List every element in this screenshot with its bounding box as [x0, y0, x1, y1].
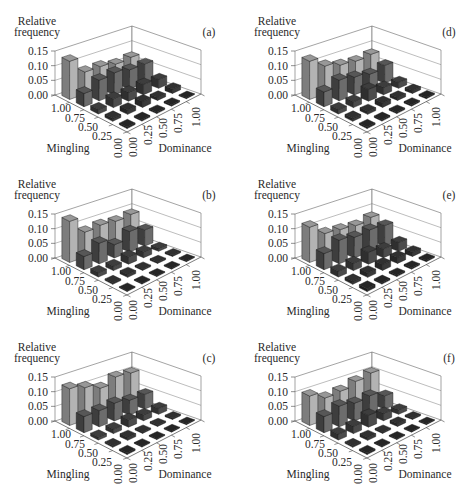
- dominance-tick-label: 0.75: [412, 439, 424, 459]
- mingling-tick-mark: [334, 443, 338, 444]
- dominance-tick-mark: [127, 295, 131, 297]
- z-tick-label: 0.05: [28, 74, 48, 86]
- z-tick-label: 0.10: [28, 60, 48, 72]
- mingling-axis-title: Mingling: [287, 468, 330, 481]
- dominance-tick-mark: [367, 295, 371, 297]
- dominance-tick-label: 0.25: [142, 288, 154, 308]
- z-tick-label: 0.00: [268, 415, 288, 427]
- bar: [137, 389, 153, 410]
- bar: [62, 382, 78, 425]
- bar: [107, 238, 123, 258]
- dominance-tick-mark: [171, 109, 175, 111]
- mingling-axis-title: Mingling: [47, 468, 90, 481]
- chart-panel-e: 0.000.050.100.15Relativefrequency(e)Ming…: [254, 178, 456, 322]
- dominance-tick-label: 0.25: [382, 451, 394, 471]
- bar: [91, 237, 107, 264]
- bar-left-face: [347, 74, 355, 95]
- bar-left-face: [91, 240, 99, 264]
- z-axis-title-line-1: Relative: [258, 341, 296, 353]
- mingling-tick-label: 0.00: [112, 301, 124, 321]
- bar-left-face: [62, 217, 70, 262]
- bar-left-face: [302, 223, 310, 262]
- dominance-tick-mark: [411, 435, 415, 437]
- dominance-tick-label: 1.00: [190, 270, 202, 290]
- z-axis-title-line-1: Relative: [258, 178, 296, 190]
- dominance-tick-label: 0.50: [157, 444, 169, 464]
- bar-left-face: [62, 385, 70, 426]
- bar: [377, 390, 393, 409]
- bar: [331, 74, 347, 101]
- chart-panel-c: 0.000.050.100.15Relativefrequency(c)Ming…: [14, 341, 216, 485]
- z-tick-label: 0.10: [28, 386, 48, 398]
- dominance-tick-label: 1.00: [430, 107, 442, 127]
- z-axis-title-line-1: Relative: [18, 341, 56, 353]
- bar: [361, 246, 377, 264]
- z-tick-label: 0.00: [28, 252, 48, 264]
- bar: [377, 60, 393, 83]
- bar: [151, 73, 167, 88]
- z-tick-label: 0.15: [28, 208, 48, 220]
- bar: [391, 236, 407, 251]
- mingling-tick-mark: [80, 110, 84, 111]
- chart-panel-f: 0.000.050.100.15Relativefrequency(f)Ming…: [254, 341, 455, 485]
- bar-left-face: [107, 70, 115, 95]
- bar: [91, 74, 107, 101]
- bar: [121, 86, 137, 102]
- bar-right-face: [99, 240, 107, 264]
- bar-left-face: [347, 400, 355, 421]
- z-axis-title-line-2: frequency: [14, 189, 60, 202]
- mingling-tick-mark: [334, 280, 338, 281]
- mingling-tick-label: 0.00: [112, 464, 124, 484]
- mingling-tick-mark: [109, 451, 113, 452]
- mingling-tick-mark: [80, 436, 84, 437]
- mingling-tick-label: 0.25: [332, 456, 352, 468]
- bar-left-face: [91, 77, 99, 101]
- dominance-tick-label: 0.00: [367, 300, 379, 320]
- chart-panel-b: 0.000.050.100.15Relativefrequency(b)Ming…: [14, 178, 216, 322]
- bar-left-face: [331, 403, 339, 427]
- mingling-tick-mark: [349, 288, 353, 289]
- bar-left-face: [377, 63, 385, 83]
- z-axis-title-line-1: Relative: [258, 15, 296, 27]
- dominance-tick-label: 1.00: [190, 107, 202, 127]
- mingling-tick-label: 0.00: [352, 138, 364, 158]
- z-axis-title-line-2: frequency: [14, 26, 60, 39]
- dominance-tick-label: 0.50: [157, 118, 169, 138]
- z-tick-label: 0.00: [28, 89, 48, 101]
- dominance-tick-label: 0.00: [367, 463, 379, 483]
- panel-label: (b): [202, 189, 216, 202]
- dominance-tick-mark: [411, 109, 415, 111]
- mingling-tick-mark: [80, 273, 84, 274]
- mingling-tick-label: 0.25: [92, 130, 112, 142]
- panel-label: (c): [203, 352, 216, 365]
- dominance-tick-label: 0.00: [127, 463, 139, 483]
- z-axis-title-line-2: frequency: [254, 26, 300, 39]
- dominance-axis-title: Dominance: [398, 468, 451, 480]
- dominance-tick-mark: [426, 265, 430, 267]
- dominance-tick-mark: [367, 132, 371, 134]
- dominance-tick-mark: [201, 420, 205, 422]
- dominance-tick-label: 1.00: [430, 270, 442, 290]
- z-tick-label: 0.10: [28, 223, 48, 235]
- mingling-tick-mark: [123, 295, 127, 296]
- mingling-axis-title: Mingling: [47, 305, 90, 318]
- mingling-tick-label: 0.00: [352, 301, 364, 321]
- bar: [122, 225, 138, 252]
- mingling-tick-mark: [123, 132, 127, 133]
- mingling-tick-mark: [349, 451, 353, 452]
- dominance-tick-label: 0.75: [172, 276, 184, 296]
- bar: [316, 410, 332, 433]
- dominance-tick-label: 0.75: [172, 439, 184, 459]
- mingling-tick-mark: [349, 125, 353, 126]
- z-tick-label: 0.05: [268, 400, 288, 412]
- mingling-tick-mark: [94, 117, 98, 118]
- z-tick-label: 0.00: [268, 89, 288, 101]
- panel-label: (e): [443, 189, 456, 202]
- dominance-tick-mark: [426, 102, 430, 104]
- z-tick-label: 0.15: [268, 45, 288, 57]
- z-tick-label: 0.05: [268, 74, 288, 86]
- bar: [302, 389, 318, 425]
- dominance-tick-mark: [201, 94, 205, 96]
- mingling-tick-mark: [320, 436, 324, 437]
- bar: [302, 221, 318, 263]
